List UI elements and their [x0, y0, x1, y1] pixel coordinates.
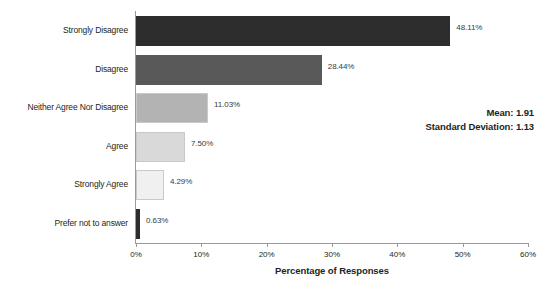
x-axis-tick [397, 243, 398, 247]
x-axis-tick-label: 20% [259, 250, 275, 259]
statistics-annotation: Mean: 1.91 Standard Deviation: 1.13 [426, 106, 534, 134]
category-label: Agree [0, 141, 128, 151]
bar [136, 93, 208, 123]
bar [136, 209, 140, 239]
bar [136, 132, 185, 162]
bar-value-label: 0.63% [146, 216, 168, 225]
bar-value-label: 48.11% [456, 23, 482, 32]
bar [136, 16, 450, 46]
x-axis-tick [528, 243, 529, 247]
x-axis-tick-label: 40% [389, 250, 405, 259]
bar-row: 4.29% [136, 166, 528, 205]
mean-label: Mean: 1.91 [426, 106, 534, 120]
bar [136, 170, 164, 200]
x-axis-tick [267, 243, 268, 247]
bar-chart: Strongly DisagreeDisagreeNeither Agree N… [0, 0, 543, 297]
standard-deviation-label: Standard Deviation: 1.13 [426, 120, 534, 134]
x-axis-tick-label: 60% [520, 250, 536, 259]
x-axis-tick [201, 243, 202, 247]
bar-row: 28.44% [136, 51, 528, 90]
x-axis-tick-label: 0% [130, 250, 142, 259]
x-axis-title: Percentage of Responses [136, 265, 528, 276]
bar-value-label: 7.50% [191, 139, 213, 148]
bar-value-label: 4.29% [170, 177, 192, 186]
category-label: Prefer not to answer [0, 218, 128, 228]
x-axis-tick-label: 10% [193, 250, 209, 259]
bar-row: 0.63% [136, 205, 528, 244]
category-label: Strongly Disagree [0, 25, 128, 35]
category-label: Disagree [0, 64, 128, 74]
x-axis-tick [136, 243, 137, 247]
category-label: Neither Agree Nor Disagree [0, 102, 128, 112]
x-axis-tick-label: 30% [324, 250, 340, 259]
category-label: Strongly Agree [0, 179, 128, 189]
x-axis-tick [463, 243, 464, 247]
bar-value-label: 28.44% [328, 62, 355, 71]
bar-value-label: 11.03% [214, 100, 240, 109]
bar [136, 55, 322, 85]
x-axis-tick-label: 50% [455, 250, 471, 259]
x-axis-tick [332, 243, 333, 247]
bar-row: 48.11% [136, 12, 528, 51]
category-axis-labels: Strongly DisagreeDisagreeNeither Agree N… [0, 12, 130, 243]
